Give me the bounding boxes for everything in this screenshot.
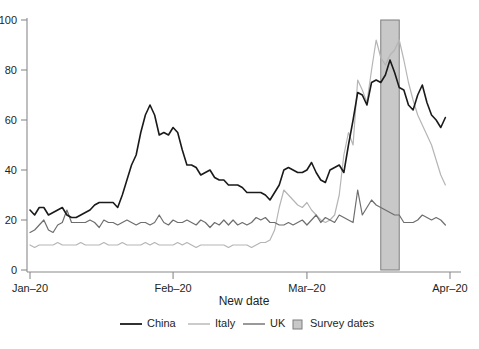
legend-label: China	[147, 317, 177, 329]
x-axis-ticks	[30, 272, 450, 279]
x-tick-label: Apr–20	[432, 282, 467, 294]
chart-legend: ChinaItalyUKSurvey dates	[120, 317, 375, 329]
y-tick-label: 0	[11, 264, 17, 276]
y-tick-label: 60	[5, 114, 17, 126]
survey-dates-band	[381, 20, 399, 270]
y-tick-label: 40	[5, 164, 17, 176]
y-tick-label: 80	[5, 64, 17, 76]
x-tick-label: Mar–20	[288, 282, 325, 294]
y-tick-label: 100	[0, 14, 17, 26]
y-axis-tick-labels: 020406080100	[0, 14, 17, 276]
x-tick-label: Jan–20	[12, 282, 48, 294]
line-chart: 020406080100 Jan–20Feb–20Mar–20Apr–20 Ne…	[0, 0, 479, 349]
chart-figure: 020406080100 Jan–20Feb–20Mar–20Apr–20 Ne…	[0, 0, 479, 349]
legend-swatch-icon	[293, 320, 302, 329]
legend-label: Italy	[215, 317, 236, 329]
legend-item-uk: UK	[243, 317, 286, 329]
legend-item-italy: Italy	[188, 317, 236, 329]
survey-dates-rect	[381, 20, 399, 270]
x-axis-title: New date	[219, 294, 270, 308]
legend-item-china: China	[120, 317, 177, 329]
y-tick-label: 20	[5, 214, 17, 226]
x-axis-tick-labels: Jan–20Feb–20Mar–20Apr–20	[12, 282, 468, 294]
x-tick-label: Feb–20	[154, 282, 191, 294]
legend-label: Survey dates	[310, 317, 375, 329]
y-axis-ticks	[21, 20, 27, 270]
legend-item-survey-dates: Survey dates	[293, 317, 375, 329]
legend-label: UK	[270, 317, 286, 329]
